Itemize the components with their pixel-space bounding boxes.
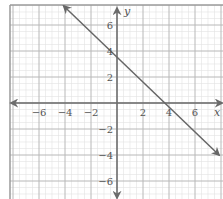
x-tick-label: 4 (166, 107, 172, 118)
y-tick-label: −2 (98, 124, 113, 135)
x-tick-label: −4 (58, 107, 73, 118)
axes (11, 8, 222, 198)
x-tick-label: 6 (192, 107, 198, 118)
y-tick-label: −4 (98, 150, 113, 161)
coordinate-plane: −6−4−2246642−2−4−6 x y (0, 0, 223, 199)
x-tick-label: −6 (32, 107, 47, 118)
y-tick-label: 4 (107, 46, 113, 57)
y-axis-label: y (123, 5, 131, 18)
y-tick-label: −6 (98, 176, 113, 187)
function-line (64, 6, 219, 155)
x-axis-label: x (214, 106, 221, 119)
line-series (64, 6, 219, 155)
x-tick-label: −2 (84, 107, 99, 118)
y-tick-label: 6 (107, 20, 113, 31)
y-tick-label: 2 (107, 72, 113, 83)
x-tick-label: 2 (140, 107, 146, 118)
